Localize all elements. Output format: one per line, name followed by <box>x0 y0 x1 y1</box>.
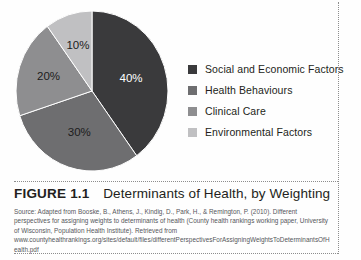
figure-source-note: Source: Adapted from Booske, B., Athens,… <box>14 207 330 254</box>
chart-area: 40%30%20%10% Social and Economic Factors… <box>0 0 338 181</box>
legend-swatch-icon <box>188 107 197 116</box>
pie-slices <box>16 11 168 171</box>
legend-item-label: Environmental Factors <box>205 126 312 138</box>
figure-title: FIGURE 1.1 Determinants of Health, by We… <box>14 186 332 201</box>
pie-slice-value-label: 30% <box>68 126 91 138</box>
legend-item-clinical-care[interactable]: Clinical Care <box>188 102 336 120</box>
legend-item-label: Clinical Care <box>205 105 266 117</box>
pie-slice-value-label: 10% <box>66 39 89 51</box>
divider-right <box>338 2 339 254</box>
legend-swatch-icon <box>188 65 197 74</box>
legend-swatch-icon <box>188 86 197 95</box>
legend-item-social-economic[interactable]: Social and Economic Factors <box>188 60 336 78</box>
pie-chart: 40%30%20%10% <box>14 10 170 172</box>
figure-number: FIGURE 1.1 <box>14 186 90 201</box>
figure-page: 40%30%20%10% Social and Economic Factors… <box>0 0 361 260</box>
pie-slice-value-label: 40% <box>119 72 142 84</box>
figure-title-text: Determinants of Health, by Weighting <box>90 186 331 201</box>
chart-legend: Social and Economic Factors Health Behav… <box>188 60 336 144</box>
pie-slice-value-label: 20% <box>37 70 60 82</box>
legend-item-label: Social and Economic Factors <box>205 63 344 75</box>
divider-top <box>14 181 338 182</box>
legend-item-label: Health Behaviours <box>205 84 293 96</box>
legend-item-environmental-factors[interactable]: Environmental Factors <box>188 123 336 141</box>
legend-item-health-behaviours[interactable]: Health Behaviours <box>188 81 336 99</box>
figure-caption-block: FIGURE 1.1 Determinants of Health, by We… <box>14 186 332 254</box>
legend-swatch-icon <box>188 128 197 137</box>
pie-chart-svg: 40%30%20%10% <box>14 10 170 172</box>
